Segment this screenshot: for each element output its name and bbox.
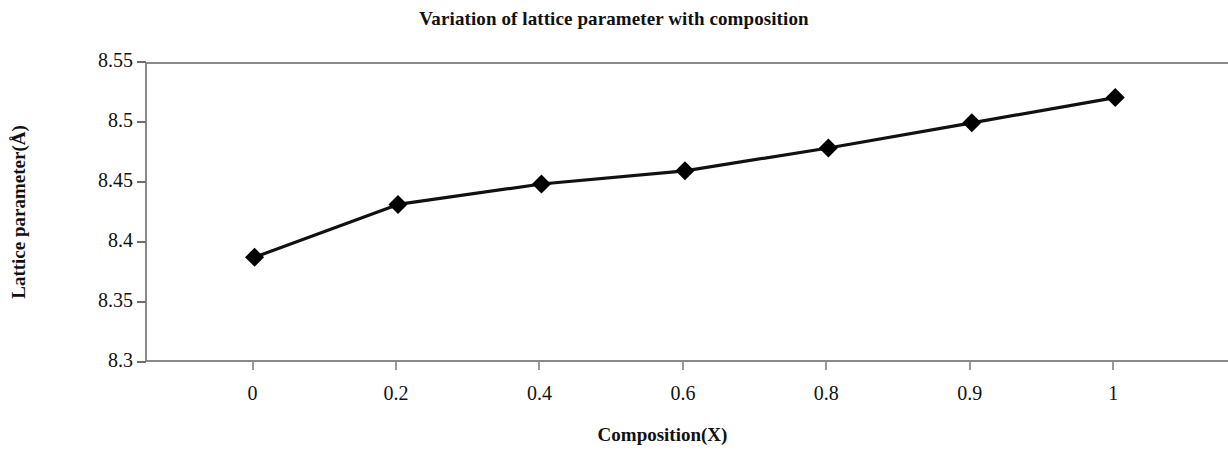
data-markers — [245, 88, 1125, 267]
x-tick-label: 0.4 — [499, 382, 579, 405]
y-axis-title-container: Lattice parameter(Å) — [2, 62, 36, 362]
x-tick-mark — [1112, 362, 1114, 370]
series-canvas — [147, 64, 1228, 364]
data-point-0.8 — [819, 139, 838, 158]
y-tick-mark — [137, 361, 146, 363]
y-tick-mark — [137, 121, 146, 123]
x-tick-mark — [395, 362, 397, 370]
x-tick-label: 0 — [213, 382, 293, 405]
data-point-1 — [1106, 88, 1125, 107]
x-tick-mark — [252, 362, 254, 370]
y-tick-mark — [137, 61, 146, 63]
x-tick-label: 1 — [1073, 382, 1153, 405]
x-tick-mark — [538, 362, 540, 370]
plot-area — [145, 62, 1228, 362]
x-tick-label: 0.9 — [930, 382, 1010, 405]
x-tick-label: 0.2 — [356, 382, 436, 405]
x-axis-title: Composition(X) — [145, 424, 1180, 446]
x-tick-mark — [969, 362, 971, 370]
x-tick-label: 0.6 — [643, 382, 723, 405]
data-point-0.9 — [962, 113, 981, 132]
x-tick-mark — [825, 362, 827, 370]
x-tick-mark — [682, 362, 684, 370]
y-tick-label: 8.45 — [60, 169, 145, 195]
line-chart: Variation of lattice parameter with comp… — [0, 0, 1228, 458]
y-tick-mark — [137, 301, 146, 303]
x-tick-label: 0.8 — [786, 382, 866, 405]
y-axis-title: Lattice parameter(Å) — [8, 125, 30, 299]
chart-title: Variation of lattice parameter with comp… — [0, 8, 1228, 30]
y-tick-label: 8.5 — [60, 109, 145, 135]
y-tick-label: 8.4 — [60, 229, 145, 255]
y-tick-label: 8.3 — [60, 349, 145, 375]
data-point-0.6 — [675, 161, 694, 180]
y-tick-label: 8.55 — [60, 49, 145, 75]
data-point-0 — [245, 248, 264, 267]
y-tick-mark — [137, 241, 146, 243]
y-tick-label: 8.35 — [60, 289, 145, 315]
data-point-0.2 — [389, 195, 408, 214]
y-tick-mark — [137, 181, 146, 183]
data-point-0.4 — [532, 175, 551, 194]
